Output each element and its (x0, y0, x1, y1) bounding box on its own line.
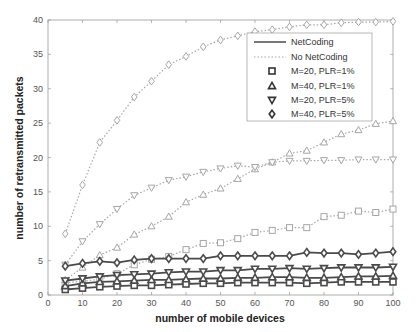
legend-label: M=20, PLR=5% (291, 95, 355, 105)
square-marker-icon (200, 240, 206, 246)
x-tick-label: 60 (250, 298, 260, 308)
line-chart: 01020304050607080901000510152025303540 n… (0, 0, 416, 332)
legend-label: M=20, PLR=1% (291, 66, 355, 76)
square-marker-icon (183, 247, 189, 253)
y-tick-label: 25 (33, 118, 43, 128)
x-tick-label: 80 (319, 298, 329, 308)
square-marker-icon (373, 210, 379, 216)
y-tick-label: 40 (33, 15, 43, 25)
y-tick-label: 30 (33, 84, 43, 94)
square-marker-icon (390, 279, 396, 285)
square-marker-icon (287, 225, 293, 231)
x-tick-label: 100 (385, 298, 400, 308)
legend-label: NetCoding (291, 37, 334, 47)
y-tick-label: 35 (33, 49, 43, 59)
legend-label: M=40, PLR=1% (291, 81, 355, 91)
x-tick-label: 50 (215, 298, 225, 308)
x-tick-label: 40 (181, 298, 191, 308)
x-tick-label: 70 (284, 298, 294, 308)
square-marker-icon (269, 227, 275, 233)
square-marker-icon (252, 229, 258, 235)
y-axis-label: number of retransmitted packets (13, 76, 25, 240)
legend-label: No NetCoding (291, 52, 348, 62)
x-tick-label: 10 (77, 298, 87, 308)
legend-label: M=40, PLR=5% (291, 109, 355, 119)
x-axis-label: number of mobile devices (155, 312, 285, 324)
x-tick-label: 0 (45, 298, 50, 308)
y-tick-label: 10 (33, 221, 43, 231)
y-tick-label: 0 (38, 290, 43, 300)
square-marker-icon (338, 212, 344, 218)
y-tick-label: 20 (33, 153, 43, 163)
x-tick-label: 90 (353, 298, 363, 308)
legend: NetCodingNo NetCodingM=20, PLR=1%M=40, P… (247, 33, 372, 121)
square-marker-icon (269, 68, 275, 74)
square-marker-icon (235, 236, 241, 242)
y-tick-label: 15 (33, 187, 43, 197)
square-marker-icon (356, 208, 362, 214)
y-tick-label: 5 (38, 256, 43, 266)
square-marker-icon (390, 206, 396, 212)
square-marker-icon (304, 225, 310, 231)
square-marker-icon (321, 214, 327, 220)
x-tick-label: 20 (112, 298, 122, 308)
x-tick-label: 30 (146, 298, 156, 308)
square-marker-icon (218, 240, 224, 246)
